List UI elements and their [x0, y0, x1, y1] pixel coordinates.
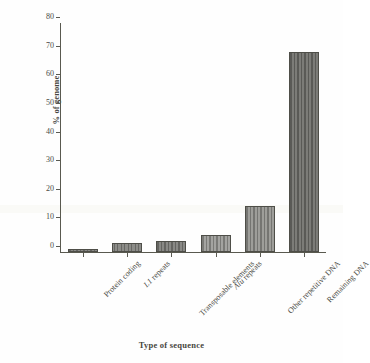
bar	[112, 243, 142, 252]
y-axis-tick-label: 50	[46, 98, 54, 107]
y-axis-tick-label: 60	[46, 69, 54, 78]
x-axis-tick-label: Remaining DNA	[325, 259, 370, 304]
bar	[156, 241, 186, 252]
y-axis-tick-label: 30	[46, 155, 54, 164]
x-axis-tick-label: Transposable elements	[198, 259, 257, 318]
x-axis-tick-label: L1 repeats	[142, 259, 172, 289]
x-axis-tick-mark	[216, 253, 217, 257]
y-axis-tick-label: 80	[46, 12, 54, 21]
x-axis-tick-label: Alu repeats	[231, 259, 263, 291]
x-axis-tick-mark	[127, 253, 128, 257]
y-axis-tick-40: 40	[28, 127, 60, 138]
y-axis-tick-30: 30	[28, 155, 60, 166]
x-axis-tick-mark	[171, 253, 172, 257]
y-axis-tick-label: 40	[46, 127, 54, 136]
y-axis-tick-20: 20	[28, 184, 60, 195]
x-axis-tick-label: Protein coding	[102, 259, 142, 299]
bar	[201, 235, 231, 252]
bar	[245, 206, 275, 252]
y-axis-tick-0: 0	[28, 241, 60, 252]
x-axis-line	[60, 252, 326, 253]
y-axis-tick-70: 70	[28, 41, 60, 52]
bar	[68, 249, 98, 252]
y-axis-tick-label: 70	[46, 41, 54, 50]
y-axis-tick-80: 80	[28, 12, 60, 23]
x-axis-tick-mark	[304, 253, 305, 257]
x-axis-tick-mark	[83, 253, 84, 257]
y-axis-tick-label: 0	[50, 241, 54, 250]
y-axis-tick-50: 50	[28, 98, 60, 109]
y-axis-ticks: 01020304050607080	[28, 18, 60, 258]
x-axis-tick-label: Other repetitive DNA	[285, 259, 341, 315]
y-axis-tick-60: 60	[28, 69, 60, 80]
y-axis-tick-label: 20	[46, 184, 54, 193]
x-axis-tick-mark	[260, 253, 261, 257]
y-axis-tick-mark	[56, 17, 60, 18]
plot-area	[61, 23, 326, 252]
x-axis-title: Type of sequence	[0, 340, 343, 350]
y-axis-tick-10: 10	[28, 212, 60, 223]
bar	[289, 52, 319, 252]
y-axis-tick-label: 10	[46, 212, 54, 221]
